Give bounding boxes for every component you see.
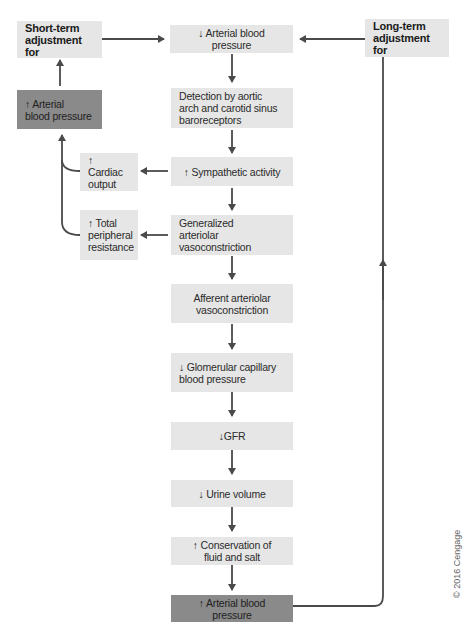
short-term-adjustment-box: Short-term adjustment for xyxy=(17,21,102,58)
baroreceptor-detection-box: Detection by aortic arch and carotid sin… xyxy=(171,88,293,128)
cardiac-output-label: ↑ Cardiac output xyxy=(88,154,130,190)
urine-volume-label: ↓ Urine volume xyxy=(198,488,265,500)
afferent-vasoconstriction-label: Afferent arteriolar vasoconstriction xyxy=(193,292,270,316)
glomerular-pressure-label: ↓ Glomerular capillary blood pressure xyxy=(179,361,276,385)
gfr-box: ↓GFR xyxy=(171,422,293,450)
gfr-label: ↓GFR xyxy=(219,430,246,442)
abp-decrease-box: ↓ Arterial blood pressure xyxy=(170,25,293,53)
generalized-vasoconstriction-box: Generalized arteriolar vasoconstriction xyxy=(171,215,293,255)
afferent-vasoconstriction-box: Afferent arteriolar vasoconstriction xyxy=(171,284,293,323)
long-term-label: Long-term adjustment for xyxy=(373,20,441,56)
baroreceptor-detection-label: Detection by aortic arch and carotid sin… xyxy=(179,90,277,126)
abp-increase-short-label: ↑ Arterial blood pressure xyxy=(25,98,92,122)
abp-increase-long-label: ↑ Arterial blood pressure xyxy=(179,597,285,621)
short-term-label: Short-term adjustment for xyxy=(25,22,94,58)
abp-increase-long-box: ↑ Arterial blood pressure xyxy=(171,595,293,622)
copyright-notice: © 2016 Cengage xyxy=(452,530,462,598)
total-peripheral-resistance-box: ↑ Total peripheral resistance xyxy=(80,210,138,260)
sympathetic-activity-box: ↑ Sympathetic activity xyxy=(171,157,293,186)
total-peripheral-resistance-label: ↑ Total peripheral resistance xyxy=(88,217,134,253)
long-term-adjustment-box: Long-term adjustment for xyxy=(365,19,449,57)
sympathetic-activity-label: ↑ Sympathetic activity xyxy=(184,166,281,178)
abp-decrease-label: ↓ Arterial blood pressure xyxy=(178,27,285,51)
conservation-box: ↑ Conservation of fluid and salt xyxy=(171,537,293,565)
urine-volume-box: ↓ Urine volume xyxy=(171,480,293,507)
cardiac-output-box: ↑ Cardiac output xyxy=(80,153,138,191)
conservation-label: ↑ Conservation of fluid and salt xyxy=(193,539,271,563)
glomerular-pressure-box: ↓ Glomerular capillary blood pressure xyxy=(171,353,293,392)
generalized-vasoconstriction-label: Generalized arteriolar vasoconstriction xyxy=(179,217,285,253)
abp-increase-short-box: ↑ Arterial blood pressure xyxy=(17,90,102,129)
